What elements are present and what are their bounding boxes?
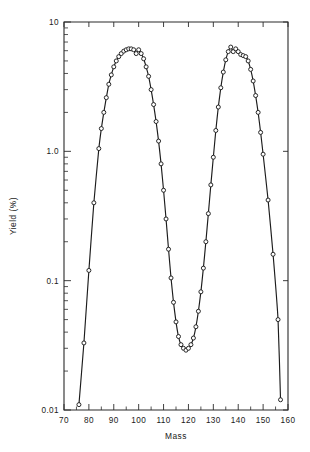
data-point: [246, 59, 250, 63]
data-point: [271, 252, 275, 256]
data-point: [164, 217, 168, 221]
data-point: [104, 96, 108, 100]
data-point: [152, 103, 156, 107]
x-tick-label: 90: [109, 416, 119, 425]
data-point: [244, 55, 248, 59]
data-point: [214, 128, 218, 132]
data-point: [176, 335, 180, 339]
data-point: [226, 50, 230, 54]
data-point: [276, 318, 280, 322]
data-point: [191, 336, 195, 340]
data-point: [204, 240, 208, 244]
data-point: [92, 201, 96, 205]
data-point: [256, 110, 260, 114]
data-point: [154, 120, 158, 124]
x-tick-label: 80: [84, 416, 94, 425]
data-point: [82, 341, 86, 345]
data-point: [279, 398, 283, 402]
data-point: [107, 82, 111, 86]
data-point: [216, 105, 220, 109]
data-point: [206, 212, 210, 216]
x-axis-title: Mass: [165, 431, 187, 441]
data-point: [196, 309, 200, 313]
data-point: [162, 188, 166, 192]
data-point: [159, 162, 163, 166]
fission-yield-chart: 708090100110120130140150160 0.010.11.010…: [0, 0, 310, 452]
data-point: [224, 58, 228, 62]
data-point: [114, 59, 118, 63]
x-tick-label: 130: [206, 416, 221, 425]
data-point: [219, 86, 223, 90]
data-point: [259, 130, 263, 134]
data-point: [169, 276, 173, 280]
data-point: [87, 268, 91, 272]
data-point: [201, 266, 205, 270]
chart-canvas: 708090100110120130140150160 0.010.11.010…: [0, 0, 310, 452]
data-point: [109, 73, 113, 77]
data-point: [147, 74, 151, 78]
data-point: [251, 79, 255, 83]
x-tick-label: 70: [59, 416, 69, 425]
data-point: [194, 325, 198, 329]
x-tick-label: 120: [181, 416, 196, 425]
y-tick-label: 0.01: [41, 406, 59, 415]
data-point: [142, 57, 146, 61]
data-point: [134, 52, 138, 56]
data-point: [99, 127, 103, 131]
data-point: [112, 65, 116, 69]
data-point: [266, 198, 270, 202]
data-point: [137, 48, 141, 52]
data-point: [261, 152, 265, 156]
x-tick-label: 100: [131, 416, 146, 425]
y-tick-label: 10: [49, 18, 59, 27]
chart-background: [0, 0, 310, 452]
x-tick-label: 110: [156, 416, 170, 425]
data-point: [167, 247, 171, 251]
data-point: [254, 94, 258, 98]
data-point: [209, 183, 213, 187]
data-point: [174, 320, 178, 324]
data-point: [199, 290, 203, 294]
data-point: [229, 45, 233, 49]
data-point: [172, 300, 176, 304]
data-point: [221, 70, 225, 74]
data-point: [189, 343, 193, 347]
data-point: [102, 110, 106, 114]
data-point: [157, 139, 161, 143]
data-point: [97, 147, 101, 151]
data-point: [139, 52, 143, 56]
data-point: [144, 65, 148, 69]
data-point: [77, 403, 81, 407]
data-point: [132, 48, 136, 52]
data-point: [249, 67, 253, 71]
data-point: [211, 155, 215, 159]
y-tick-label: 1.0: [46, 147, 59, 156]
x-tick-label: 160: [281, 416, 296, 425]
x-tick-label: 140: [231, 416, 246, 425]
y-tick-label: 0.1: [46, 277, 59, 286]
y-axis-title: Yield (%): [8, 197, 18, 235]
x-tick-label: 150: [256, 416, 271, 425]
data-point: [149, 88, 153, 92]
